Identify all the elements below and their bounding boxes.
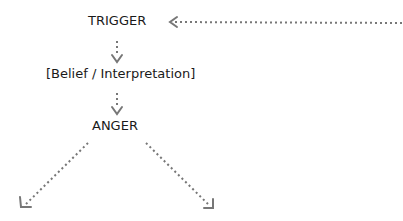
connector-arrows xyxy=(0,0,403,221)
belief-node: [Belief / Interpretation] xyxy=(46,66,195,81)
trigger-node: TRIGGER xyxy=(88,13,146,28)
anger-node: ANGER xyxy=(92,118,138,133)
